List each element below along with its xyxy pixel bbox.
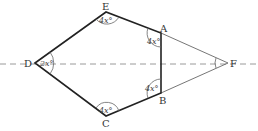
angle-label-C: 4x° bbox=[98, 106, 113, 115]
diagram-canvas: 4x° 4x° 4x° 4x° 2x° E A B C D F bbox=[0, 0, 258, 131]
vertex-label-E: E bbox=[102, 1, 109, 12]
angle-arc-F bbox=[215, 58, 216, 68]
segment-AF bbox=[161, 33, 228, 63]
vertex-label-C: C bbox=[102, 118, 110, 129]
vertex-label-A: A bbox=[159, 23, 168, 34]
angle-label-D: 2x° bbox=[39, 59, 54, 68]
angle-label-B: 4x° bbox=[144, 84, 159, 93]
angle-label-A: 4x° bbox=[146, 37, 161, 46]
vertex-label-F: F bbox=[230, 58, 237, 69]
angle-label-E: 4x° bbox=[98, 16, 113, 25]
pentagon-diagram: 4x° 4x° 4x° 4x° 2x° E A B C D F bbox=[0, 0, 258, 131]
vertex-label-B: B bbox=[159, 95, 166, 106]
vertex-label-D: D bbox=[24, 58, 32, 69]
segment-BF bbox=[161, 63, 228, 93]
